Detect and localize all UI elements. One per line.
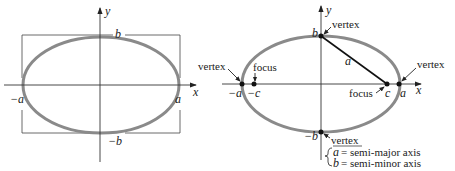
label-neg-b: −b — [108, 134, 122, 148]
legend-var-b: b — [333, 156, 339, 170]
vertex-right-label: vertex — [417, 58, 445, 70]
label-a: a — [400, 86, 406, 100]
label-neg-b: −b — [304, 129, 318, 143]
segment-b-to-focus — [321, 36, 387, 84]
right-diagram: y x a b −b −a −c c a vertex vertex verte… — [198, 3, 445, 170]
label-neg-a: −a — [228, 86, 242, 100]
label-b: b — [115, 27, 121, 41]
legend: a = semi-major axis b = semi-minor axis — [325, 145, 421, 170]
label-b: b — [312, 26, 318, 40]
legend-text-b: = semi-minor axis — [341, 157, 421, 169]
label-neg-a: −a — [10, 92, 24, 106]
vertex-top-point — [319, 34, 324, 39]
segment-label-a: a — [345, 54, 351, 68]
label-neg-c: −c — [247, 86, 261, 100]
focus-left-label: focus — [253, 61, 277, 73]
label-a: a — [175, 92, 181, 106]
y-axis-label: y — [104, 4, 111, 18]
x-axis-label: x — [415, 83, 422, 97]
ellipse-diagrams: y x b −b −a a y x a b −b −a −c c a verte… — [0, 0, 455, 171]
label-c: c — [385, 86, 391, 100]
vertex-bottom-point — [319, 130, 324, 135]
vertex-top-label: vertex — [332, 18, 360, 30]
left-diagram: y x b −b −a a — [4, 4, 199, 162]
x-axis-label: x — [192, 85, 199, 99]
vertex-left-label: vertex — [198, 60, 226, 72]
y-axis-label: y — [325, 3, 332, 17]
focus-right-label: focus — [349, 87, 373, 99]
